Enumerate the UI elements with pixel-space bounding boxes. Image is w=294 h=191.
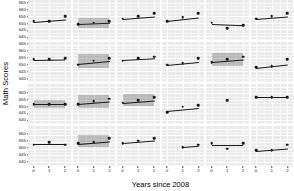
y-tick-label: 655 (19, 139, 26, 143)
facet-panel (162, 0, 205, 40)
data-point (181, 16, 184, 19)
data-point (255, 17, 258, 20)
gridline-vertical (219, 84, 220, 124)
x-tick-label: 0 (32, 169, 34, 173)
x-tick-cell: 012 (251, 166, 294, 177)
data-point (64, 143, 67, 146)
y-tick-label: 655 (19, 56, 26, 60)
y-tick-label: 660 (19, 49, 26, 53)
facet-panel (117, 42, 160, 82)
data-point (48, 20, 51, 23)
gridline-vertical (212, 84, 213, 124)
gridline-vertical (256, 126, 257, 166)
y-tick-label: 645 (19, 28, 26, 32)
data-point (226, 27, 229, 30)
x-tick-label: 0 (121, 169, 123, 173)
gridline-vertical (34, 42, 35, 82)
data-point (286, 12, 289, 15)
x-tick-label: 1 (48, 169, 50, 173)
data-point (181, 146, 184, 149)
x-axis-title: Years since 2008 (28, 177, 293, 191)
x-tick-label: 1 (182, 169, 184, 173)
data-point (64, 103, 67, 106)
y-tick-label: 650 (19, 146, 26, 150)
gridline-vertical (154, 126, 155, 166)
x-tick-label: 0 (255, 169, 257, 173)
y-tick-label: 645 (19, 111, 26, 115)
gridline-vertical (109, 126, 110, 166)
facet-scatter-chart: Math Scores 6656606556506456406656606556… (0, 0, 293, 191)
gridline-vertical (235, 84, 236, 124)
data-point (77, 63, 80, 66)
facet-panel (162, 126, 205, 166)
data-point (210, 142, 213, 145)
gridline-vertical (138, 126, 139, 166)
data-point (32, 143, 35, 146)
data-point (32, 20, 35, 23)
y-tick-label: 660 (19, 7, 26, 11)
y-tick-label: 665 (19, 42, 26, 46)
data-point (197, 143, 200, 146)
x-axis-title-text: Years since 2008 (132, 180, 189, 189)
x-tick-cell: 012 (117, 166, 160, 177)
data-point (197, 12, 200, 15)
data-point (153, 12, 156, 15)
data-point (121, 101, 124, 104)
gridline-vertical (167, 42, 168, 82)
gridline-vertical (167, 126, 168, 166)
data-point (108, 57, 111, 60)
x-tick-label: 2 (153, 169, 155, 173)
gridline-vertical (41, 42, 42, 82)
data-point (77, 103, 80, 106)
facet-panel (73, 42, 116, 82)
gridline-vertical (272, 42, 273, 82)
data-point (92, 21, 95, 24)
data-point (286, 58, 289, 61)
y-axis-title: Math Scores (0, 0, 12, 166)
data-point (137, 139, 140, 142)
data-point (270, 15, 273, 18)
facet-panel (251, 42, 294, 82)
gridline-vertical (264, 84, 265, 124)
facet-panel (28, 126, 71, 166)
data-point (242, 55, 245, 58)
x-tick-label: 0 (77, 169, 79, 173)
x-tick-label: 2 (197, 169, 199, 173)
gridline-vertical (287, 0, 288, 40)
data-point (255, 149, 258, 152)
data-point (92, 59, 95, 62)
x-tick-label: 2 (286, 169, 288, 173)
data-point (137, 57, 140, 60)
gridline-vertical (65, 42, 66, 82)
data-point (166, 111, 169, 114)
data-point (181, 105, 184, 108)
y-tick-label: 665 (19, 1, 26, 5)
x-tick-label: 2 (64, 169, 66, 173)
gridline-vertical (49, 126, 50, 166)
y-axis-tick-labels: 6656606556506456406656606556506456406606… (12, 0, 28, 166)
gridline-vertical (212, 0, 213, 40)
gridline-vertical (280, 84, 281, 124)
facet-panel (206, 42, 249, 82)
gridline-vertical (272, 0, 273, 40)
gridline-vertical (123, 126, 124, 166)
gridline-vertical (34, 126, 35, 166)
gridline-vertical (264, 0, 265, 40)
gridline-vertical (167, 84, 168, 124)
gridline-vertical (264, 42, 265, 82)
gridline-vertical (227, 84, 228, 124)
data-point (121, 142, 124, 145)
gridline-vertical (175, 42, 176, 82)
facet-panel (117, 126, 160, 166)
facet-panel (73, 126, 116, 166)
y-tick-label: 640 (19, 160, 26, 164)
gridline-vertical (287, 84, 288, 124)
data-point (242, 142, 245, 145)
x-tick-cell: 012 (73, 166, 116, 177)
panel-grid (28, 0, 293, 166)
regression-line (212, 145, 243, 146)
gridline-vertical (243, 42, 244, 82)
x-tick-cell: 012 (206, 166, 249, 177)
gridline-vertical (130, 126, 131, 166)
data-point (197, 104, 200, 107)
